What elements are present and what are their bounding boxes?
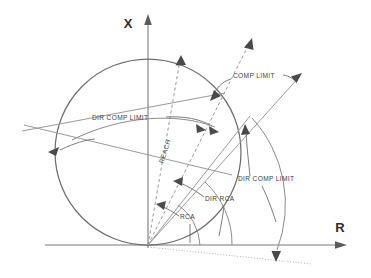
dir-comp-limit-right-callout [241, 124, 276, 222]
impedance-diagram-canvas: X R [0, 0, 371, 278]
dir-rca-arrowhead [173, 177, 183, 186]
reach-line-primary-arrowhead [176, 55, 187, 66]
reach-line-secondary-arrowhead [244, 38, 254, 50]
dir-comp-limit-right-leader-down [262, 186, 276, 222]
dir-comp-limit-left-line [22, 93, 225, 131]
label-dir-comp-limit-right: DIR COMP LIMIT [238, 175, 294, 182]
label-dir-rca: DIR RCA [205, 195, 235, 202]
relay-characteristic-svg: X R [0, 0, 371, 278]
label-dir-comp-limit-left: DIR COMP LIMIT [92, 114, 148, 121]
x-axis-arrowhead [144, 14, 152, 25]
dir-comp-limit-right-line-group [148, 116, 250, 245]
dir-comp-limit-right-leader-up [246, 132, 250, 176]
rca-arrowhead [156, 201, 166, 210]
dotted-reference-group [148, 247, 312, 264]
comp-limit-outer-arrowhead [291, 73, 302, 83]
r-axis-arrowhead [335, 241, 347, 249]
dir-comp-limit-left-line-group [22, 93, 232, 175]
dir-comp-limit-left-callout [48, 117, 219, 156]
x-axis-label: X [124, 16, 133, 31]
label-comp-limit: COMP LIMIT [233, 72, 275, 79]
dir-comp-limit-left-arrowhead-b [209, 126, 219, 135]
label-group: COMP LIMIT DIR COMP LIMIT DIR COMP LIMIT… [92, 72, 294, 220]
dir-comp-limit-right-arc [252, 118, 285, 250]
dir-comp-limit-left-outer-arrowhead [48, 147, 59, 156]
dotted-reference-line [148, 247, 312, 264]
label-rca: RCA [180, 213, 195, 220]
dir-comp-limit-right-line [148, 116, 250, 245]
dir-comp-limit-left-arrowhead-a [196, 124, 206, 133]
dir-comp-limit-left-arc [72, 118, 215, 140]
r-axis-label: R [335, 220, 345, 235]
